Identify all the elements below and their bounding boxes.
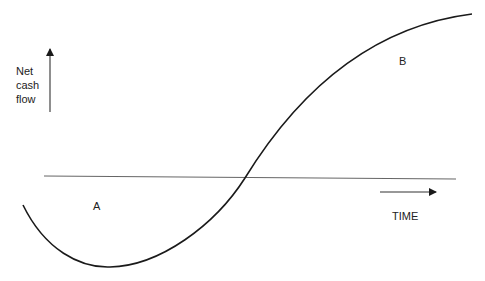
y-label-line-1: Net [16, 64, 39, 78]
cash-flow-curve [23, 14, 472, 267]
region-label-a: A [93, 199, 100, 213]
region-label-b: B [399, 54, 406, 68]
x-axis-label: TIME [392, 209, 418, 223]
y-label-line-3: flow [16, 92, 39, 106]
y-axis-label: Net cash flow [16, 64, 39, 106]
y-label-line-2: cash [16, 78, 39, 92]
diagram-canvas [0, 0, 485, 281]
baseline-zero [44, 176, 456, 179]
